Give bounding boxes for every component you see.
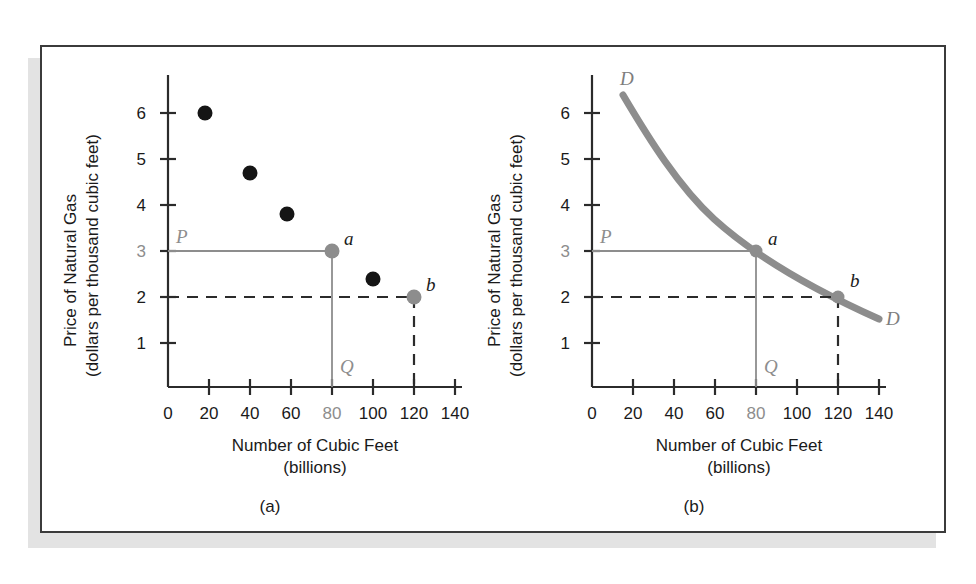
x-tick-label-20: 20: [200, 404, 219, 423]
quantity-marker-label: Q: [764, 356, 778, 377]
x-tick-label-140: 140: [865, 404, 893, 423]
data-point-a: [325, 244, 340, 259]
x-tick-label-140: 140: [441, 404, 469, 423]
y-tick-label-5: 5: [137, 150, 146, 169]
demand-curve: [623, 95, 879, 319]
x-tick-label-40: 40: [241, 404, 260, 423]
x-tick-label-120: 120: [824, 404, 852, 423]
y-tick-label-3: 3: [137, 242, 146, 261]
y-tick-label-1: 1: [137, 334, 146, 353]
point-label-a: a: [344, 228, 354, 249]
chart-panel-a: Price of Natural Gas (dollars per thousa…: [50, 47, 490, 535]
point-label-b: b: [850, 270, 860, 291]
y-tick-label-4: 4: [561, 196, 570, 215]
x-tick-label-40: 40: [665, 404, 684, 423]
x-tick-label-0: 0: [587, 404, 596, 423]
data-point: [198, 106, 213, 121]
point-label-b: b: [426, 274, 436, 295]
data-point: [280, 207, 295, 222]
data-point-b: [407, 290, 422, 305]
scatter-plot-a: Price of Natural Gas (dollars per thousa…: [50, 47, 490, 487]
y-axis-title-line2: (dollars per thousand cubic feet): [507, 134, 526, 377]
y-tick-label-6: 6: [137, 104, 146, 123]
x-tick-label-80: 80: [323, 404, 342, 423]
y-tick-label-3: 3: [561, 242, 570, 261]
x-axis-title-line1: Number of Cubic Feet: [656, 436, 823, 455]
data-point: [366, 272, 381, 287]
y-tick-label-4: 4: [137, 196, 146, 215]
panel-caption-a: (a): [50, 497, 490, 517]
y-axis-title-line1: Price of Natural Gas: [61, 194, 80, 347]
figure-root: Price of Natural Gas (dollars per thousa…: [0, 0, 976, 584]
quantity-marker-label: Q: [340, 356, 354, 377]
y-tick-label-2: 2: [561, 288, 570, 307]
figure-frame: Price of Natural Gas (dollars per thousa…: [40, 45, 946, 533]
data-point-b: [832, 291, 845, 304]
x-tick-label-20: 20: [624, 404, 643, 423]
y-axis-title-line2: (dollars per thousand cubic feet): [83, 134, 102, 377]
demand-curve-label-bottom: D: [885, 308, 900, 329]
price-marker-label: P: [599, 226, 612, 247]
y-tick-label-6: 6: [561, 104, 570, 123]
x-axis-title-line2: (billions): [707, 458, 770, 477]
price-marker-label: P: [175, 226, 188, 247]
x-tick-label-80: 80: [747, 404, 766, 423]
x-axis-title-line2: (billions): [283, 458, 346, 477]
data-point: [243, 166, 258, 181]
x-tick-label-120: 120: [400, 404, 428, 423]
y-tick-label-2: 2: [137, 288, 146, 307]
x-tick-label-100: 100: [783, 404, 811, 423]
data-point-a: [750, 245, 763, 258]
point-label-a: a: [768, 228, 778, 249]
y-axis-title-line1: Price of Natural Gas: [485, 194, 504, 347]
x-axis-title-line1: Number of Cubic Feet: [232, 436, 399, 455]
y-tick-label-5: 5: [561, 150, 570, 169]
x-tick-label-60: 60: [282, 404, 301, 423]
x-tick-label-60: 60: [706, 404, 725, 423]
line-plot-b: Price of Natural Gas (dollars per thousa…: [474, 47, 914, 487]
x-tick-label-100: 100: [359, 404, 387, 423]
demand-curve-label-top: D: [619, 68, 634, 89]
panel-caption-b: (b): [474, 497, 914, 517]
x-tick-label-0: 0: [163, 404, 172, 423]
chart-panel-b: Price of Natural Gas (dollars per thousa…: [474, 47, 914, 535]
y-tick-label-1: 1: [561, 334, 570, 353]
